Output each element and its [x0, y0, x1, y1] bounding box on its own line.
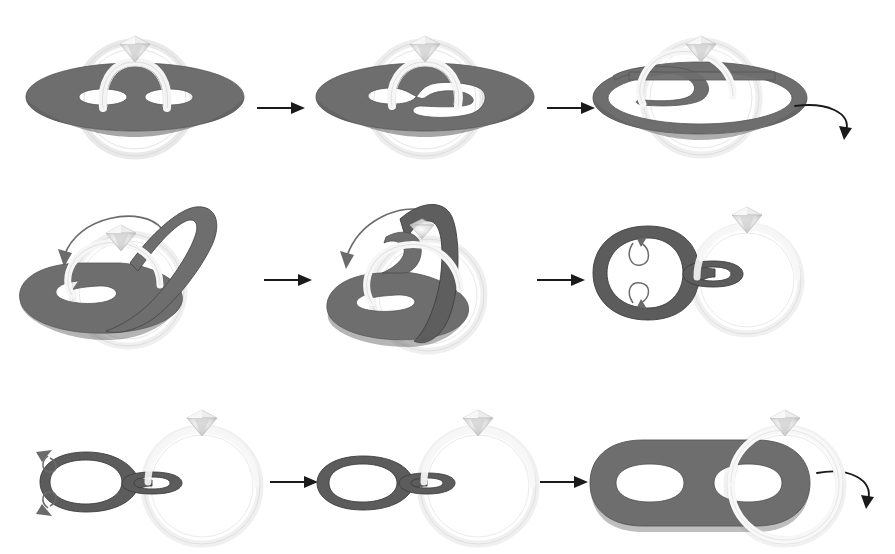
surface-untwist: [40, 452, 182, 512]
twist-arrow-bottom: [629, 283, 648, 309]
figure-row-3: [0, 390, 895, 554]
panel-untwist: [0, 390, 270, 554]
twist-arrow-top: [629, 237, 648, 265]
arrow-4-5: [262, 270, 314, 290]
arrow-3-4: [790, 100, 860, 150]
panel-flat-disk-two-holes: [10, 0, 260, 185]
surface-folded: [327, 204, 469, 347]
topology-figure: [0, 0, 895, 554]
panel-lifted-loop: [10, 185, 280, 380]
arrow-8-9: [538, 472, 590, 492]
figure-row-1: [0, 0, 895, 185]
panel-folded-over: [310, 185, 570, 380]
panel-spiral-band: [585, 0, 815, 185]
figure-row-2: [0, 185, 895, 380]
panel-merged-s-hole: [300, 0, 550, 185]
surface-disk-merged: [316, 63, 534, 137]
panel-two-clean-loops: [305, 390, 565, 554]
panel-ring-linked-loops: [585, 185, 825, 380]
surface-final-slab: [590, 440, 810, 532]
surface-spiral-band: [593, 62, 807, 140]
arrow-5-6: [535, 270, 587, 290]
panel-final-two-holed-surface: [588, 390, 888, 554]
surface-disk: [26, 63, 244, 137]
surface-two-loops: [317, 456, 455, 510]
surface-linked-loops: [593, 226, 743, 320]
